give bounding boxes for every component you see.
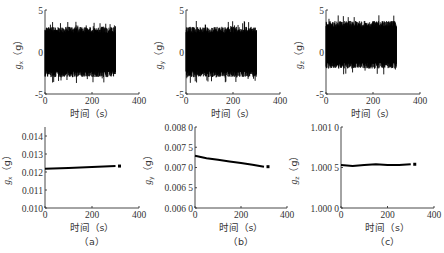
end-marker [267, 165, 270, 168]
y-tick-label: -5 [176, 90, 184, 100]
y-tick-label: 1.000 5 [311, 163, 340, 173]
y-tick-label: 1.000 0 [311, 204, 340, 214]
mean-trace [195, 156, 264, 167]
x-tick-label: 400 [427, 210, 442, 220]
y-tick-label: 5 [319, 6, 324, 16]
y-tick-label: 0.014 [22, 132, 44, 142]
x-tick-label: 400 [273, 96, 288, 106]
y-tick-label: -5 [316, 90, 324, 100]
y-tick-label: 5 [38, 6, 43, 16]
y-axis-label: gx（g） [1, 150, 13, 184]
y-tick-label: -5 [35, 90, 43, 100]
y-tick-label: 0 [179, 48, 184, 58]
mean-trace [45, 166, 116, 169]
axis-lines [341, 127, 434, 208]
y-tick-label: 0 [319, 48, 324, 58]
x-tick-label: 200 [226, 96, 241, 106]
x-axis-label: 时间（s） [365, 222, 410, 233]
axis-lines [195, 127, 287, 208]
panel-caption: （c） [375, 236, 400, 247]
y-tick-label: 0.006 0 [165, 204, 194, 214]
x-tick-label: 400 [132, 210, 147, 220]
x-tick-label: 200 [234, 210, 249, 220]
y-axis-label: gx（g） [12, 35, 24, 69]
x-tick-label: 0 [324, 96, 329, 106]
x-tick-label: 0 [43, 210, 48, 220]
y-axis-label: gy（g） [142, 150, 155, 184]
x-tick-label: 200 [85, 96, 100, 106]
end-marker [118, 165, 121, 168]
x-tick-label: 400 [132, 96, 147, 106]
y-tick-label: 0.007 0 [165, 163, 194, 173]
y-tick-label: 0.013 [22, 150, 44, 160]
y-tick-label: 0.010 [22, 204, 44, 214]
x-axis-label: 时间（s） [70, 222, 115, 233]
end-marker [413, 163, 416, 166]
x-tick-label: 0 [193, 210, 198, 220]
mean-trace [341, 164, 411, 166]
y-axis-label: gz（g） [293, 35, 305, 69]
y-tick-label: 5 [179, 6, 184, 16]
x-tick-label: 0 [43, 96, 48, 106]
y-tick-label: 0.007 5 [165, 143, 194, 153]
x-axis-label: 时间（s） [211, 108, 256, 119]
y-tick-label: 0 [38, 48, 43, 58]
x-axis-label: 时间（s） [70, 108, 115, 119]
y-axis-label: gy（g） [153, 35, 166, 69]
chart-a-top: 0200400-505时间（s）gx（g） [12, 6, 146, 120]
x-tick-label: 200 [380, 210, 395, 220]
y-tick-label: 0.008 0 [165, 123, 194, 133]
figure: 0200400-505时间（s）gx（g）0200400-505时间（s）gy（… [0, 0, 444, 253]
x-tick-label: 0 [184, 96, 189, 106]
y-tick-label: 0.006 5 [165, 183, 194, 193]
y-axis-label: gz（g） [288, 151, 300, 185]
chart-a-bottom: 02004000.0100.0110.0120.0130.014时间（s）gx（… [1, 127, 146, 247]
x-tick-label: 200 [85, 210, 100, 220]
x-axis-label: 时间（s） [219, 222, 264, 233]
y-tick-label: 1.001 0 [311, 123, 340, 133]
x-tick-label: 0 [339, 210, 344, 220]
chart-c-top: 0200400-505时间（s）gz（g） [293, 6, 427, 120]
x-axis-label: 时间（s） [351, 108, 396, 119]
y-tick-label: 0.012 [22, 168, 44, 178]
x-tick-label: 400 [280, 210, 295, 220]
chart-b-top: 0200400-505时间（s）gy（g） [153, 6, 287, 120]
chart-c-bottom: 02004001.000 01.000 51.001 0时间（s）gz（g）（c… [288, 123, 441, 248]
panel-caption: （a） [79, 236, 105, 247]
y-tick-label: 0.011 [22, 186, 43, 196]
panel-caption: （b） [228, 236, 254, 247]
chart-b-bottom: 02004000.006 00.006 50.007 00.007 50.008… [142, 123, 294, 248]
x-tick-label: 200 [366, 96, 381, 106]
x-tick-label: 400 [413, 96, 428, 106]
